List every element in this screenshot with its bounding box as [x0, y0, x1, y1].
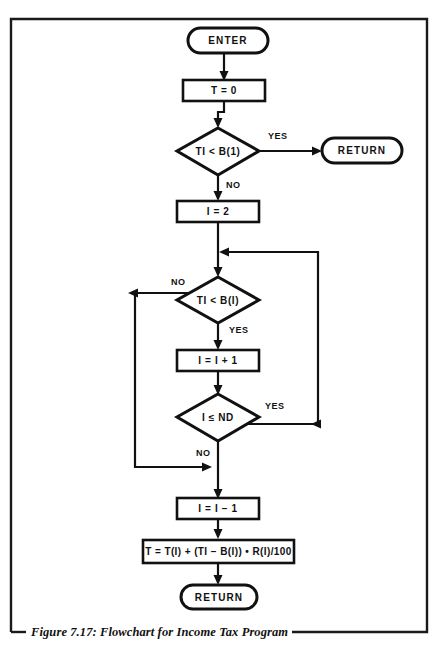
- node-i-increment: I = I + 1: [177, 350, 259, 371]
- arrow-left-bus-merge: [202, 463, 212, 472]
- enter-label: ENTER: [208, 35, 247, 46]
- branch-label-yes-dec1: YES: [268, 131, 288, 141]
- figure-caption: Figure 7.17: Flowchart for Income Tax Pr…: [28, 625, 292, 640]
- branch-label-yes-dec3: YES: [265, 401, 285, 411]
- t-zero-label: T = 0: [211, 85, 237, 96]
- branch-label-no-dec2: NO: [171, 277, 186, 287]
- node-i-decrement: I = I − 1: [177, 498, 259, 519]
- node-t-zero: T = 0: [183, 80, 265, 101]
- arrow-right-bus-merge: [219, 248, 229, 257]
- branch-label-no-dec1: NO: [226, 180, 241, 190]
- node-decision-ti-lt-b1: TI < B(1): [177, 128, 259, 175]
- node-tax-formula: T = T(I) + (TI − B(I)) • R(I)/100: [143, 540, 294, 563]
- return-bottom-label: RETURN: [195, 592, 243, 603]
- arrow-dec2-yes: [214, 340, 223, 350]
- tax-formula-label: T = T(I) + (TI − B(I)) • R(I)/100: [145, 546, 291, 557]
- i-increment-label: I = I + 1: [198, 355, 237, 366]
- decision-1-label: TI < B(1): [195, 146, 240, 157]
- node-enter: ENTER: [188, 28, 268, 53]
- node-decision-i-le-nd: I ≤ ND: [177, 394, 259, 441]
- arrow-dec1-no: [214, 191, 223, 201]
- i-equals-2-label: I = 2: [207, 206, 230, 217]
- arrow-dec1-yes: [312, 147, 322, 156]
- node-return-top: RETURN: [322, 138, 402, 163]
- node-i-equals-2: I = 2: [177, 201, 259, 222]
- edge-dec3-yes-right-bus: [226, 252, 318, 424]
- branch-label-yes-dec2: YES: [229, 325, 249, 335]
- figure-container: ENTER T = 0 TI < B(1) RETURN I = 2 TI < …: [0, 0, 436, 653]
- decision-2-label: TI < B(I): [197, 295, 239, 306]
- branch-label-no-dec3: NO: [196, 448, 211, 458]
- arrow-iminus-to-formula: [214, 529, 223, 539]
- i-decrement-label: I = I − 1: [198, 503, 237, 514]
- node-decision-ti-lt-bi: TI < B(I): [177, 277, 259, 323]
- node-return-bottom: RETURN: [181, 585, 257, 609]
- arrow-dec2-no-left: [128, 289, 138, 298]
- edge-dec2-no-left-bus: [135, 293, 205, 467]
- flowchart-svg: ENTER T = 0 TI < B(1) RETURN I = 2 TI < …: [0, 0, 436, 653]
- decision-3-label: I ≤ ND: [202, 412, 234, 423]
- arrow-dec3-yes-right: [311, 420, 321, 429]
- return-top-label: RETURN: [338, 145, 386, 156]
